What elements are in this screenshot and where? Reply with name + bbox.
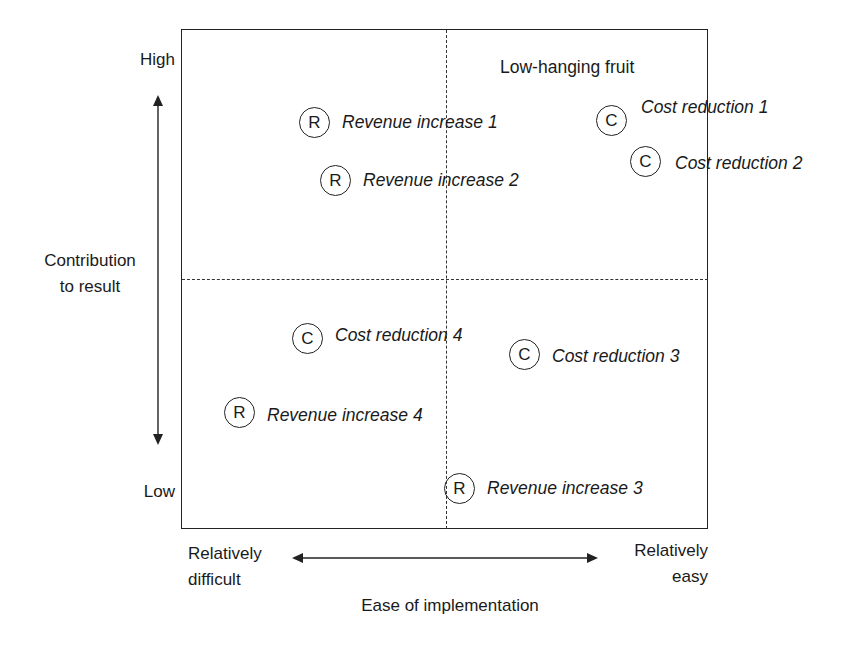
point-revenue-increase-3: R Revenue increase 3 <box>444 473 643 504</box>
cost-marker-icon: C <box>630 146 661 177</box>
x-left-label: Relatively difficult <box>188 541 262 593</box>
point-revenue-increase-1: R Revenue increase 1 <box>299 107 498 138</box>
revenue-marker-icon: R <box>224 397 255 428</box>
cost-marker-icon: C <box>596 105 627 136</box>
y-low-label: Low <box>110 482 175 502</box>
point-cost-reduction-1: C Cost reduction 1 <box>596 105 768 136</box>
point-label: Cost reduction 2 <box>675 153 802 174</box>
point-label: Revenue increase 4 <box>267 405 423 426</box>
y-high-label: High <box>110 50 175 70</box>
cost-marker-icon: C <box>292 323 323 354</box>
revenue-marker-icon: R <box>320 165 351 196</box>
quadrant-label-low-hanging-fruit: Low-hanging fruit <box>500 57 634 78</box>
point-label: Cost reduction 4 <box>335 325 462 346</box>
cost-marker-icon: C <box>509 339 540 370</box>
x-left-line2: difficult <box>188 567 262 593</box>
horizontal-divider <box>182 279 708 280</box>
y-axis-title-line2: to result <box>20 274 160 300</box>
point-cost-reduction-3: C Cost reduction 3 <box>509 339 679 370</box>
point-revenue-increase-2: R Revenue increase 2 <box>320 165 519 196</box>
point-label: Cost reduction 1 <box>641 97 768 118</box>
y-axis-title: Contribution to result <box>20 248 160 300</box>
point-cost-reduction-2: C Cost reduction 2 <box>630 146 802 177</box>
point-label: Revenue increase 1 <box>342 112 498 133</box>
revenue-marker-icon: R <box>444 473 475 504</box>
point-label: Cost reduction 3 <box>552 346 679 367</box>
point-revenue-increase-4: R Revenue increase 4 <box>224 397 423 428</box>
x-right-label: Relatively easy <box>580 538 708 590</box>
revenue-marker-icon: R <box>299 107 330 138</box>
point-cost-reduction-4: C Cost reduction 4 <box>292 323 462 354</box>
x-right-line1: Relatively <box>580 538 708 564</box>
point-label: Revenue increase 3 <box>487 478 643 499</box>
vertical-double-arrow-icon <box>150 95 166 445</box>
y-axis-title-line1: Contribution <box>20 248 160 274</box>
point-label: Revenue increase 2 <box>363 170 519 191</box>
horizontal-double-arrow-icon <box>292 550 598 566</box>
x-left-line1: Relatively <box>188 541 262 567</box>
x-right-line2: easy <box>580 564 708 590</box>
x-axis-title: Ease of implementation <box>300 596 600 616</box>
